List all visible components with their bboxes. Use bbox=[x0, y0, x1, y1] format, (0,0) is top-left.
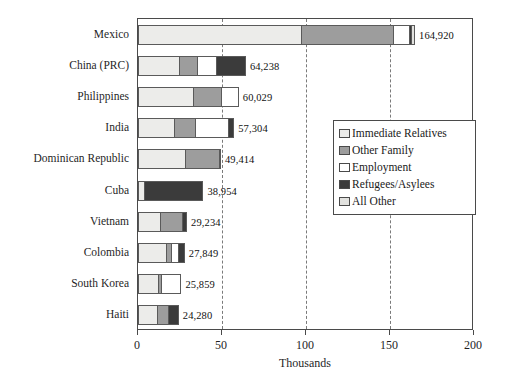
legend-label: Immediate Relatives bbox=[352, 128, 447, 140]
stacked-bar bbox=[138, 274, 181, 294]
bar-segment bbox=[139, 244, 166, 262]
category-label: South Korea bbox=[71, 277, 129, 289]
axis-tick-label: 150 bbox=[380, 338, 398, 353]
bar-segment bbox=[228, 119, 233, 137]
bar-row: 164,920 bbox=[138, 25, 472, 45]
stacked-bar bbox=[138, 118, 234, 138]
bar-segment bbox=[185, 150, 219, 168]
bar-segment bbox=[174, 119, 195, 137]
bar-value-label: 29,234 bbox=[191, 216, 220, 227]
legend-swatch-icon bbox=[339, 163, 350, 172]
legend-label: Refugees/Asylees bbox=[352, 179, 434, 191]
category-label: China (PRC) bbox=[69, 59, 129, 71]
axis-tick-label: 50 bbox=[215, 338, 227, 353]
stacked-bar bbox=[138, 243, 185, 263]
stacked-bar bbox=[138, 181, 203, 201]
bar-row: 24,280 bbox=[138, 305, 472, 325]
legend-swatch-icon bbox=[339, 180, 350, 189]
bar-segment bbox=[139, 213, 160, 231]
category-label: India bbox=[105, 121, 129, 133]
bar-segment bbox=[160, 213, 183, 231]
bar-row: 64,238 bbox=[138, 56, 472, 76]
bar-segment bbox=[161, 275, 180, 293]
bar-segment bbox=[411, 26, 414, 44]
legend-item[interactable]: Refugees/Asylees bbox=[339, 176, 470, 193]
bar-segment bbox=[216, 57, 244, 75]
stacked-bar bbox=[138, 305, 179, 325]
legend: Immediate RelativesOther FamilyEmploymen… bbox=[333, 120, 476, 215]
bar-value-label: 164,920 bbox=[419, 29, 454, 40]
bar-value-label: 64,238 bbox=[250, 60, 279, 71]
bar-row: 25,859 bbox=[138, 274, 472, 294]
legend-item[interactable]: Immediate Relatives bbox=[339, 125, 470, 142]
axis-tick bbox=[389, 330, 390, 335]
stacked-bar bbox=[138, 87, 239, 107]
bar-segment bbox=[139, 57, 179, 75]
legend-label: Other Family bbox=[352, 145, 414, 157]
x-axis-title: Thousands bbox=[137, 356, 473, 371]
category-label: Dominican Republic bbox=[34, 152, 130, 164]
legend-item[interactable]: Other Family bbox=[339, 142, 470, 159]
category-label: Cuba bbox=[105, 184, 129, 196]
bar-value-label: 38,954 bbox=[207, 185, 236, 196]
bar-row: 27,849 bbox=[138, 243, 472, 263]
bar-segment bbox=[139, 306, 157, 324]
bar-segment bbox=[393, 26, 410, 44]
axis-tick bbox=[137, 330, 138, 335]
stacked-bar bbox=[138, 25, 415, 45]
stacked-bar bbox=[138, 212, 187, 232]
stacked-bar-chart: MexicoChina (PRC)PhilippinesIndiaDominic… bbox=[0, 0, 505, 382]
stacked-bar bbox=[138, 56, 246, 76]
category-axis-labels: MexicoChina (PRC)PhilippinesIndiaDominic… bbox=[0, 18, 133, 330]
legend-item[interactable]: Employment bbox=[339, 159, 470, 176]
stacked-bar bbox=[138, 149, 221, 169]
bar-value-label: 57,304 bbox=[238, 123, 267, 134]
value-axis: 050100150200 bbox=[137, 330, 473, 331]
category-label: Mexico bbox=[94, 28, 129, 40]
bar-value-label: 24,280 bbox=[183, 310, 212, 321]
bar-segment bbox=[301, 26, 393, 44]
bar-segment bbox=[182, 213, 186, 231]
category-label: Vietnam bbox=[90, 215, 129, 227]
bar-segment bbox=[219, 150, 220, 168]
bar-value-label: 27,849 bbox=[189, 248, 218, 259]
legend-swatch-icon bbox=[339, 197, 350, 206]
category-label: Colombia bbox=[84, 246, 129, 258]
bar-segment bbox=[139, 26, 301, 44]
category-label: Haiti bbox=[106, 308, 129, 320]
bar-value-label: 25,859 bbox=[185, 279, 214, 290]
bar-segment bbox=[168, 306, 178, 324]
category-label: Philippines bbox=[77, 90, 129, 102]
bar-value-label: 49,414 bbox=[225, 154, 254, 165]
bar-segment bbox=[144, 182, 203, 200]
legend-label: All Other bbox=[352, 196, 396, 208]
bar-segment bbox=[139, 150, 185, 168]
bar-segment bbox=[139, 88, 193, 106]
bar-segment bbox=[139, 275, 158, 293]
bar-segment bbox=[139, 119, 174, 137]
axis-tick bbox=[473, 330, 474, 335]
axis-tick bbox=[221, 330, 222, 335]
bar-segment bbox=[193, 88, 221, 106]
bar-segment bbox=[157, 306, 168, 324]
legend-item[interactable]: All Other bbox=[339, 193, 470, 210]
bar-segment bbox=[195, 119, 228, 137]
legend-swatch-icon bbox=[339, 146, 350, 155]
bar-segment bbox=[178, 244, 184, 262]
axis-tick-label: 200 bbox=[464, 338, 482, 353]
bar-segment bbox=[221, 88, 237, 106]
bar-segment bbox=[179, 57, 197, 75]
bar-value-label: 60,029 bbox=[243, 92, 272, 103]
axis-tick bbox=[305, 330, 306, 335]
axis-tick-label: 0 bbox=[134, 338, 140, 353]
legend-swatch-icon bbox=[339, 129, 350, 138]
bar-segment bbox=[197, 57, 217, 75]
axis-tick-label: 100 bbox=[296, 338, 314, 353]
bar-row: 60,029 bbox=[138, 87, 472, 107]
legend-label: Employment bbox=[352, 162, 411, 174]
